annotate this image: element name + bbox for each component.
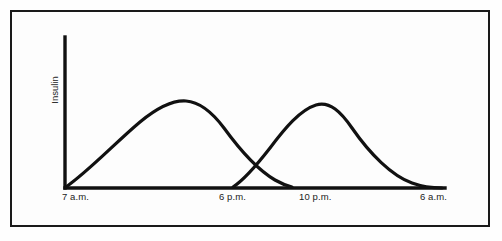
figure-screenshot: Insulin 7 a.m. 6 p.m. 10 p.m. 6 a.m.	[0, 0, 502, 241]
x-tick-label-6am: 6 a.m.	[420, 192, 447, 202]
y-axis-title-text: Insulin	[48, 76, 62, 103]
insulin-curve-daytime	[66, 101, 292, 187]
insulin-curve-nighttime	[233, 104, 442, 188]
insulin-curve-plot	[0, 0, 502, 241]
x-tick-label-10pm: 10 p.m.	[299, 192, 331, 202]
x-tick-label-6pm: 6 p.m.	[219, 192, 246, 202]
y-axis-title: Insulin	[41, 83, 55, 145]
x-tick-label-7am: 7 a.m.	[62, 192, 89, 202]
